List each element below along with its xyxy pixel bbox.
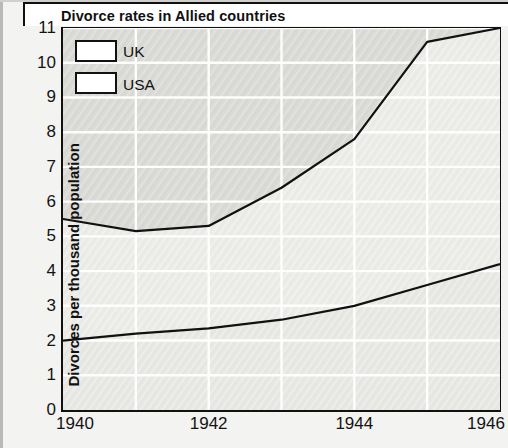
- legend-swatch-uk: [75, 40, 117, 62]
- x-axis-tick-label: 1944: [335, 414, 373, 434]
- plot-area: UK USA: [63, 28, 500, 410]
- x-axis-tick-label: 1940: [56, 414, 94, 434]
- legend-label-usa: USA: [123, 76, 155, 94]
- legend-swatch-usa: [75, 72, 117, 94]
- chart-screenshot: Divorce rates in Allied countries: [0, 0, 508, 448]
- chart-title-bar: Divorce rates in Allied countries: [23, 2, 508, 26]
- legend-label-uk: UK: [123, 43, 145, 61]
- x-axis-tick-label: 1946: [467, 414, 505, 434]
- page-left-edge: [0, 0, 3, 448]
- x-axis-tick-label: 1942: [190, 414, 228, 434]
- y-axis-title: Divorces per thousand population: [65, 147, 82, 387]
- x-axis-ticks: 1940194219441946: [0, 414, 508, 444]
- y-axis-title-wrap: Divorces per thousand population: [42, 0, 64, 448]
- chart-title: Divorce rates in Allied countries: [61, 8, 285, 24]
